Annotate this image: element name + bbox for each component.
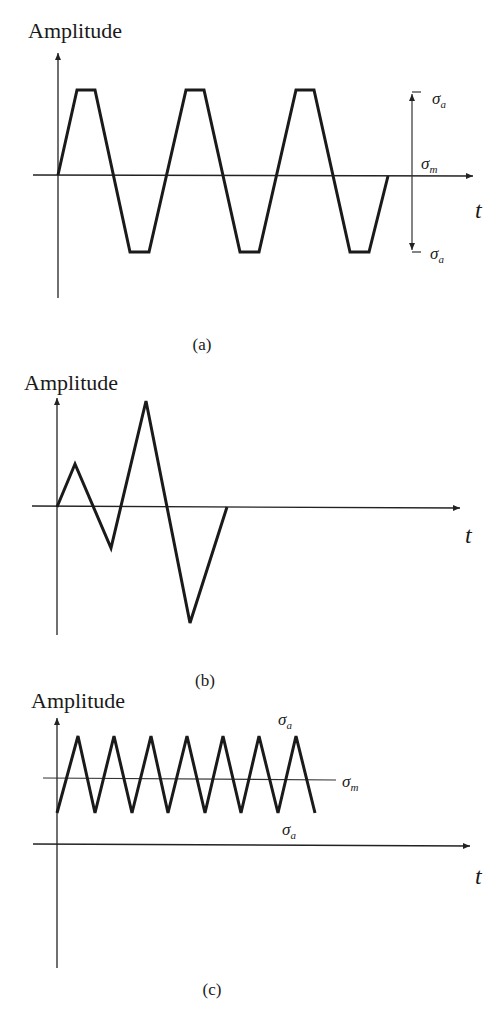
x-axis-a <box>33 175 473 176</box>
sigma-a-upper-label-c: σa <box>278 710 292 731</box>
caption-b: (b) <box>195 671 215 690</box>
x-axis-label-c: t <box>475 863 483 889</box>
sigma-m-label-a: σm <box>421 154 437 175</box>
triangle-wave-c <box>57 736 315 813</box>
sigma-a-lower-label-a: σa <box>430 244 444 265</box>
x-axis-c <box>33 844 470 846</box>
caption-c: (c) <box>203 980 222 999</box>
sigma-a-lower-label-c: σa <box>282 820 296 841</box>
y-axis-label-a: Amplitude <box>28 18 122 43</box>
panel-a: Amplitude σa σm σa t (a) <box>28 18 483 354</box>
x-axis-label-a: t <box>475 197 483 223</box>
fatigue-loading-diagram: Amplitude σa σm σa t (a) Amplitude t (b)… <box>0 0 497 1027</box>
x-axis-label-b: t <box>465 522 473 548</box>
random-wave-b <box>57 401 227 623</box>
x-axis-b <box>32 506 460 508</box>
y-axis-label-b: Amplitude <box>24 370 118 395</box>
sigma-a-upper-label-a: σa <box>432 89 446 110</box>
panel-b: Amplitude t (b) <box>24 370 473 690</box>
caption-a: (a) <box>193 335 212 354</box>
panel-c: Amplitude σa σm σa t (c) <box>31 688 483 999</box>
y-axis-label-c: Amplitude <box>31 688 125 713</box>
sigma-m-label-c: σm <box>342 772 358 793</box>
trapezoid-wave-a <box>58 90 388 252</box>
